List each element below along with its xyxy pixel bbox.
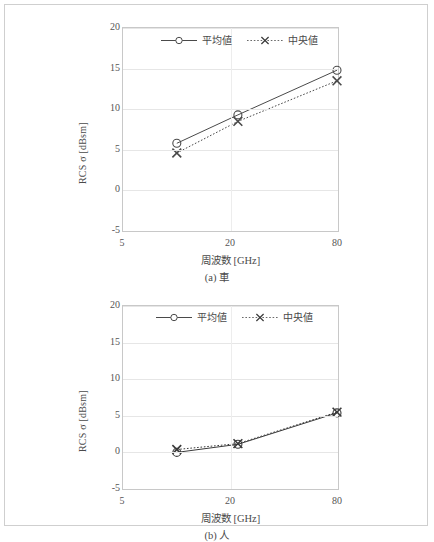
panel-caption-a: (a) 車 xyxy=(5,272,429,284)
x-axis-title-b: 周波数 [GHz] xyxy=(122,513,339,525)
y-tick-label: 0 xyxy=(88,184,120,194)
series-line-median xyxy=(177,81,337,153)
data-point-marker-cross xyxy=(333,76,342,85)
legend-item-mean-a: 平均値 xyxy=(160,35,232,46)
y-axis-title-b: RCS σ [dBsm] xyxy=(77,390,88,452)
data-point-marker-circle xyxy=(173,139,181,147)
y-tick-label: -5 xyxy=(88,225,120,235)
legend-a: 平均値 中央値 xyxy=(160,35,318,46)
gridline-vertical xyxy=(231,306,232,489)
y-axis-ticks-a: 20151050-5 xyxy=(84,27,120,232)
x-axis-title-a: 周波数 [GHz] xyxy=(122,255,339,267)
legend-marker-cross-icon-b xyxy=(241,312,279,323)
panel-caption-b: (b) 人 xyxy=(5,530,429,542)
y-tick-label: 5 xyxy=(88,144,120,154)
plot-box-b xyxy=(122,305,339,490)
legend-label-median-a: 中央値 xyxy=(288,35,318,46)
plot-box-a xyxy=(122,27,339,232)
legend-label-mean-a: 平均値 xyxy=(202,35,232,46)
legend-item-median-b: 中央値 xyxy=(241,312,313,323)
x-tick-label: 80 xyxy=(332,496,342,506)
plot-area-b: 20151050-5 52080 RCS σ [dBsm] 周波数 [GHz] … xyxy=(5,287,429,523)
x-tick-label: 5 xyxy=(120,238,125,248)
x-axis-ticks-a: 52080 xyxy=(122,238,339,252)
x-tick-label: 20 xyxy=(225,496,235,506)
series-line-median xyxy=(177,412,337,449)
gridline-vertical xyxy=(231,28,232,231)
legend-marker-circle-icon-a xyxy=(160,35,198,46)
y-tick-label: 15 xyxy=(88,63,120,73)
series-line-mean xyxy=(177,70,337,143)
y-tick-label: 20 xyxy=(88,300,120,310)
legend-label-median-b: 中央値 xyxy=(283,312,313,323)
y-tick-label: 10 xyxy=(88,373,120,383)
series-line-mean xyxy=(177,413,337,453)
legend-item-median-a: 中央値 xyxy=(246,35,318,46)
legend-marker-circle-icon-b xyxy=(155,312,193,323)
y-tick-label: 10 xyxy=(88,103,120,113)
legend-marker-cross-icon-a xyxy=(246,35,284,46)
y-axis-title-a: RCS σ [dBsm] xyxy=(77,122,88,184)
y-tick-label: -5 xyxy=(88,483,120,493)
legend-label-mean-b: 平均値 xyxy=(197,312,227,323)
y-tick-label: 0 xyxy=(88,446,120,456)
legend-item-mean-b: 平均値 xyxy=(155,312,227,323)
x-axis-ticks-b: 52080 xyxy=(122,496,339,510)
plot-area-a: 20151050-5 52080 RCS σ [dBsm] 周波数 [GHz] … xyxy=(5,9,429,279)
y-tick-label: 15 xyxy=(88,337,120,347)
x-tick-label: 80 xyxy=(332,238,342,248)
x-tick-label: 20 xyxy=(225,238,235,248)
x-tick-label: 5 xyxy=(120,496,125,506)
chart-panel-a: 20151050-5 52080 RCS σ [dBsm] 周波数 [GHz] … xyxy=(5,9,429,279)
y-axis-ticks-b: 20151050-5 xyxy=(84,305,120,490)
data-point-marker-circle xyxy=(333,66,341,74)
y-tick-label: 5 xyxy=(88,410,120,420)
figure-frame: 20151050-5 52080 RCS σ [dBsm] 周波数 [GHz] … xyxy=(4,4,428,526)
chart-panel-b: 20151050-5 52080 RCS σ [dBsm] 周波数 [GHz] … xyxy=(5,287,429,523)
legend-b: 平均値 中央値 xyxy=(155,312,313,323)
y-tick-label: 20 xyxy=(88,22,120,32)
